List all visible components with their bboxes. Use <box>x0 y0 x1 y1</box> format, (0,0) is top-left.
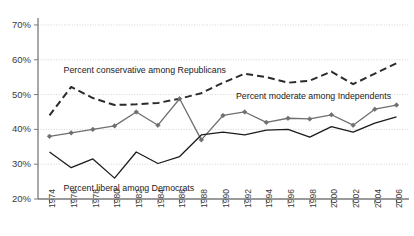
data-point-marker <box>394 103 399 108</box>
series-line-2 <box>50 117 397 178</box>
data-point-marker <box>242 110 247 115</box>
y-axis-label: 40% <box>12 123 32 134</box>
gridlines <box>38 25 409 199</box>
data-point-marker <box>286 116 291 121</box>
data-point-marker <box>91 127 96 132</box>
chart-container: 20%30%40%50%60%70% 197419761978198019821… <box>0 0 414 236</box>
y-axis-label: 20% <box>12 193 32 204</box>
data-point-marker <box>307 117 312 122</box>
series-lines <box>50 63 397 178</box>
series-annotation-1: Percent moderate among Independents <box>236 91 392 101</box>
data-point-marker <box>264 120 269 125</box>
series-annotations: Percent conservative among RepublicansPe… <box>64 65 392 193</box>
data-point-marker <box>69 131 74 136</box>
series-markers <box>47 96 399 142</box>
series-line-1 <box>50 99 397 140</box>
data-point-marker <box>47 134 52 139</box>
series-annotation-2: Percent liberal among Democrats <box>64 183 195 193</box>
y-axis-label: 60% <box>12 54 32 65</box>
y-axis-label: 50% <box>12 89 32 100</box>
y-axis-label: 70% <box>12 19 32 30</box>
y-axis-label: 30% <box>12 158 32 169</box>
line-chart: 20%30%40%50%60%70% 197419761978198019821… <box>0 0 414 236</box>
data-point-marker <box>329 112 334 117</box>
y-axis-labels: 20%30%40%50%60%70% <box>12 19 32 204</box>
series-annotation-0: Percent conservative among Republicans <box>64 65 227 75</box>
